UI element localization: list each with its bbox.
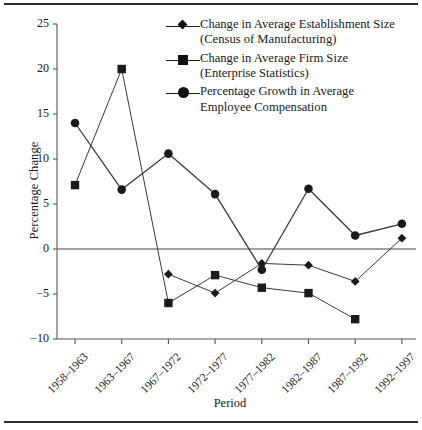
figure-container: Percentage Change Period −10−50510152025…	[0, 0, 422, 430]
series-line-segment	[215, 194, 262, 270]
series-line-segment	[309, 189, 356, 236]
legend-item-employee-compensation: Percentage Growth in Average Employee Co…	[166, 84, 420, 115]
series-line-segment	[215, 263, 262, 293]
y-tick-label: 15	[21, 106, 49, 121]
data-point-marker-diamond	[211, 289, 220, 298]
legend-label-line2: Employee Compensation	[200, 100, 354, 115]
data-point-marker-square	[71, 181, 79, 189]
series-line-segment	[262, 263, 309, 265]
legend-marker-square-icon	[166, 52, 200, 69]
legend-label-establishment-size: Change in Average Establishment Size (Ce…	[200, 17, 395, 48]
legend-label-firm-size: Change in Average Firm Size (Enterprise …	[200, 51, 348, 82]
series-line-segment	[168, 154, 215, 195]
series-line-segment	[122, 69, 169, 303]
legend-item-firm-size: Change in Average Firm Size (Enterprise …	[166, 51, 420, 82]
data-point-marker-square	[164, 299, 172, 307]
data-point-marker-circle	[117, 185, 126, 194]
chart-legend: Change in Average Establishment Size (Ce…	[166, 17, 420, 118]
legend-label-line1: Change in Average Establishment Size	[200, 17, 395, 31]
series-line-segment	[262, 288, 309, 293]
y-tick-label: 0	[21, 241, 49, 256]
series-line-segment	[355, 238, 402, 281]
series-line-segment	[75, 123, 122, 190]
data-point-marker-circle	[398, 220, 407, 229]
legend-item-establishment-size: Change in Average Establishment Size (Ce…	[166, 17, 420, 48]
y-tick-label: 20	[21, 61, 49, 76]
legend-marker-circle-icon	[166, 85, 200, 102]
x-axis-title: Period	[150, 396, 310, 411]
data-point-marker-circle	[304, 184, 313, 193]
series-line-segment	[309, 293, 356, 319]
data-point-marker-circle	[71, 119, 80, 128]
series-line-segment	[75, 69, 122, 185]
y-tick-label: 5	[21, 196, 49, 211]
series-line-segment	[262, 189, 309, 270]
data-point-marker-square	[118, 65, 126, 73]
y-tick-label: 10	[21, 151, 49, 166]
series-line-segment	[355, 224, 402, 236]
series-line-segment	[215, 275, 262, 288]
data-point-marker-circle	[164, 149, 173, 158]
y-tick-label: −10	[21, 331, 49, 346]
legend-label-line1: Change in Average Firm Size	[200, 51, 348, 65]
data-point-marker-square	[351, 315, 359, 323]
series-line-segment	[309, 265, 356, 281]
data-point-marker-circle	[351, 231, 360, 240]
data-point-marker-square	[304, 289, 312, 297]
y-tick-label: −5	[21, 286, 49, 301]
legend-label-line2: (Enterprise Statistics)	[200, 66, 348, 81]
data-point-marker-diamond	[304, 261, 313, 270]
y-tick-label: 25	[21, 16, 49, 31]
data-point-marker-circle	[258, 265, 267, 274]
data-point-marker-diamond	[164, 270, 173, 279]
legend-label-employee-compensation: Percentage Growth in Average Employee Co…	[200, 84, 354, 115]
legend-label-line1: Percentage Growth in Average	[200, 84, 354, 98]
legend-label-line2: (Census of Manufacturing)	[200, 32, 395, 47]
data-point-marker-square	[211, 271, 219, 279]
series-line-segment	[168, 275, 215, 303]
data-point-marker-circle	[211, 190, 220, 199]
series-line-segment	[168, 274, 215, 293]
data-point-marker-square	[258, 284, 266, 292]
legend-marker-diamond-icon	[166, 18, 200, 35]
